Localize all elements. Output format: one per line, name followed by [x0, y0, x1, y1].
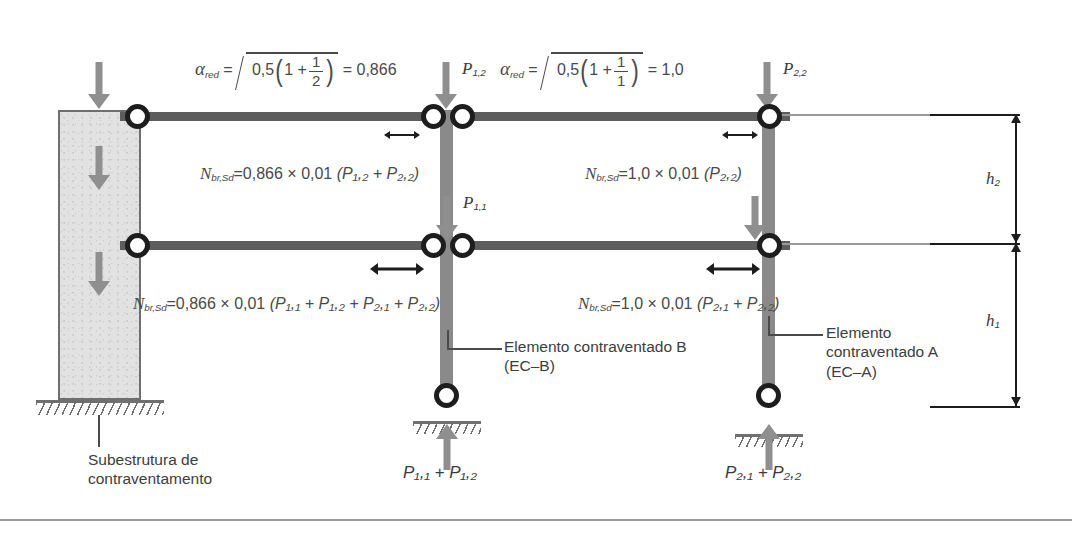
- pin-support-circle-a: [756, 383, 781, 408]
- nbr-coefficient-tr: 0,01: [668, 165, 699, 182]
- wall-base-support: [36, 400, 164, 415]
- leader-line-substructure: [98, 415, 100, 447]
- load-arrow-p12: [433, 62, 459, 109]
- sqrt-a: 0,5(1 + 1 1 ): [542, 52, 643, 89]
- label-element-a-line2: contraventado A: [826, 342, 938, 361]
- bracing-force-arrow-level-2-b: [384, 128, 420, 142]
- sqrt-b: 0,5(1 + 1 2 ): [237, 52, 338, 89]
- nbr-factor-tr: 1,0: [628, 165, 650, 182]
- dimension-tick-bottom: [930, 406, 1020, 408]
- label-substructure-line2: contraventamento: [88, 469, 212, 488]
- fraction-b: 1 2: [309, 54, 323, 89]
- nbr-terms-br: (P₂,₁ + P₂,₂): [697, 295, 779, 312]
- label-substructure-line1: Subestrutura de: [88, 450, 212, 469]
- leader-line-element-a-horizontal: [768, 334, 823, 336]
- alpha-symbol-b: α: [195, 58, 205, 79]
- formula-nbr-level-1-left: Nbr,Sd=0,866 × 0,01 (P₁,₁ + P₁,₂ + P₂,₁ …: [133, 293, 440, 315]
- dimension-label-h1: h1: [986, 310, 1000, 332]
- load-arrow-wall-mid: [86, 146, 112, 190]
- result-equals-b: =: [343, 61, 352, 78]
- hinge-column-b-left-level-2: [421, 104, 446, 129]
- paren-close-a: ): [631, 56, 639, 86]
- paren-open-a: (: [580, 56, 588, 86]
- nbr-symbol-tr: N: [585, 164, 596, 183]
- nbr-terms-bl: (P₁,₁ + P₁,₂ + P₂,₁ + P₂,₂): [270, 295, 440, 312]
- nbr-times-bl: ×: [220, 295, 229, 312]
- load-label-p11: P1,1: [463, 192, 487, 214]
- p12-subscript: 1,2: [472, 67, 485, 78]
- alpha-result-b: 0,866: [356, 61, 396, 78]
- load-arrow-wall-top: [86, 62, 112, 109]
- hinge-wall-level-2: [125, 104, 150, 129]
- inner-lead-a: 1 +: [589, 61, 612, 78]
- alpha-symbol-a: α: [500, 58, 510, 79]
- nbr-subscript-tr: br,Sd: [596, 172, 618, 183]
- hinge-column-b-right-level-2: [450, 104, 475, 129]
- load-label-p12: P1,2: [462, 58, 486, 80]
- h2-subscript: 2: [995, 177, 1000, 188]
- nbr-subscript-tl: br,Sd: [211, 172, 233, 183]
- nbr-terms-tr: (P₂,₂): [704, 165, 742, 182]
- h1-subscript: 1: [995, 319, 1000, 330]
- paren-close-b: ): [326, 56, 334, 86]
- fraction-denominator-b: 2: [309, 71, 323, 89]
- label-element-a-line1: Elemento: [826, 323, 938, 342]
- nbr-symbol-br: N: [578, 294, 589, 313]
- equals-a: =: [528, 61, 537, 78]
- label-element-a-line3: (EC–A): [826, 362, 938, 381]
- dimension-tick-middle: [930, 243, 1020, 245]
- dimension-tick-top: [930, 114, 1020, 116]
- nbr-equals-br: =: [611, 295, 620, 312]
- leader-line-element-b-vertical: [447, 330, 449, 350]
- bracing-force-arrow-level-1-b: [370, 262, 424, 276]
- radicand-lead-b: 0,5: [252, 61, 274, 78]
- dimension-line-h2: [1010, 114, 1022, 243]
- nbr-times-br: ×: [648, 295, 657, 312]
- nbr-equals-tl: =: [233, 165, 242, 182]
- hinge-wall-level-1: [125, 233, 150, 258]
- nbr-coefficient-tl: 0,01: [301, 165, 332, 182]
- hinge-column-a-level-2: [757, 104, 782, 129]
- load-arrow-p11: [434, 196, 460, 240]
- nbr-symbol-bl: N: [133, 294, 144, 313]
- load-arrow-column-a-level-1: [742, 196, 768, 240]
- pin-support-circle-b: [434, 383, 459, 408]
- reaction-label-b: P₁,₁ + P₁,₂: [403, 462, 477, 483]
- leader-line-element-a-vertical: [768, 316, 770, 336]
- fraction-numerator-b: 1: [309, 54, 323, 71]
- nbr-terms-tl: (P₁,₂ + P₂,₂): [337, 165, 419, 182]
- formula-nbr-level-2-left: Nbr,Sd=0,866 × 0,01 (P₁,₂ + P₂,₂): [200, 163, 419, 185]
- label-element-b-line1: Elemento contraventado B: [504, 337, 687, 356]
- fraction-denominator-a: 1: [614, 71, 628, 89]
- p11-subscript: 1,1: [473, 201, 486, 212]
- bracing-force-arrow-level-2-a: [722, 128, 758, 142]
- formula-nbr-level-2-right: Nbr,Sd=1,0 × 0,01 (P₂,₂): [585, 163, 742, 185]
- equals-b: =: [223, 61, 232, 78]
- nbr-equals-tr: =: [618, 165, 627, 182]
- label-substructure: Subestrutura de contraventamento: [88, 450, 212, 489]
- alpha-subscript-a: red: [510, 69, 524, 80]
- p22-symbol: P: [783, 59, 793, 78]
- bracing-force-arrow-level-1-a: [706, 262, 760, 276]
- formula-alpha-red-element-a: αred = 0,5(1 + 1 1 ) = 1,0: [500, 52, 684, 89]
- paren-open-b: (: [275, 56, 283, 86]
- nbr-times-tr: ×: [655, 165, 664, 182]
- nbr-coefficient-bl: 0,01: [234, 295, 265, 312]
- alpha-subscript-b: red: [205, 69, 219, 80]
- nbr-factor-br: 1,0: [621, 295, 643, 312]
- fraction-a: 1 1: [614, 54, 628, 89]
- nbr-subscript-br: br,Sd: [589, 302, 611, 313]
- p12-symbol: P: [462, 59, 472, 78]
- label-element-b: Elemento contraventado B (EC–B): [504, 337, 687, 376]
- p11-symbol: P: [463, 193, 473, 212]
- dimension-label-h2: h2: [986, 168, 1000, 190]
- label-element-a: Elemento contraventado A (EC–A): [826, 323, 938, 381]
- nbr-coefficient-br: 0,01: [661, 295, 692, 312]
- leader-line-element-b-horizontal: [447, 348, 502, 350]
- h1-symbol: h: [986, 311, 995, 330]
- inner-lead-b: 1 +: [284, 61, 307, 78]
- formula-alpha-red-element-b: αred = 0,5(1 + 1 2 ) = 0,866: [195, 52, 397, 89]
- reaction-label-a: P₂,₁ + P₂,₂: [725, 462, 801, 483]
- nbr-equals-bl: =: [166, 295, 175, 312]
- load-arrow-wall-lower: [86, 252, 112, 296]
